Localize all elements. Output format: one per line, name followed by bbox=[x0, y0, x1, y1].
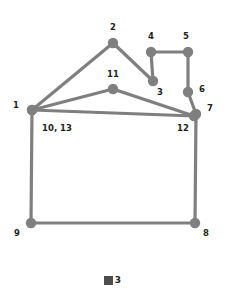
node-label-2: 2 bbox=[110, 22, 116, 32]
nodes-layer bbox=[26, 38, 201, 228]
graph-node-9[interactable] bbox=[26, 218, 36, 228]
node-label-4: 4 bbox=[148, 31, 154, 41]
node-labels-layer: 123456789111210, 13 bbox=[13, 22, 213, 238]
graph-node-11[interactable] bbox=[108, 84, 118, 94]
node-label-5: 5 bbox=[183, 31, 189, 41]
graph-node-12[interactable] bbox=[189, 111, 199, 121]
legend-square-swatch bbox=[104, 276, 113, 285]
node-label-11: 11 bbox=[107, 69, 119, 79]
legend: 3 bbox=[0, 270, 225, 290]
node-label-3: 3 bbox=[157, 87, 163, 97]
graph-node-4[interactable] bbox=[146, 47, 156, 57]
legend-label: 3 bbox=[115, 276, 121, 285]
graph-figure: 123456789111210, 13 3 bbox=[0, 0, 225, 296]
node-label-7: 7 bbox=[207, 103, 213, 113]
edge-7-8 bbox=[195, 114, 196, 223]
graph-node-13[interactable] bbox=[27, 105, 37, 115]
graph-node-6[interactable] bbox=[183, 87, 193, 97]
edge-1-12 bbox=[32, 110, 194, 116]
node-label-13: 10, 13 bbox=[42, 123, 72, 133]
node-label-8: 8 bbox=[203, 228, 209, 238]
node-label-12: 12 bbox=[177, 123, 189, 133]
graph-node-2[interactable] bbox=[108, 38, 118, 48]
graph-node-8[interactable] bbox=[190, 218, 200, 228]
node-label-9: 9 bbox=[14, 228, 20, 238]
node-label-1: 1 bbox=[13, 100, 19, 110]
edge-9-1 bbox=[31, 110, 32, 223]
node-label-6: 6 bbox=[199, 84, 205, 94]
graph-node-5[interactable] bbox=[183, 47, 193, 57]
graph-node-3[interactable] bbox=[148, 76, 158, 86]
graph-canvas: 123456789111210, 13 bbox=[0, 0, 225, 296]
